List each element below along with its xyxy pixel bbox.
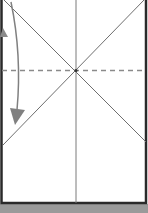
paper-rectangle [2, 0, 147, 203]
origami-diagram [0, 0, 148, 213]
crease-intersection [74, 69, 77, 72]
table-band [0, 204, 148, 213]
